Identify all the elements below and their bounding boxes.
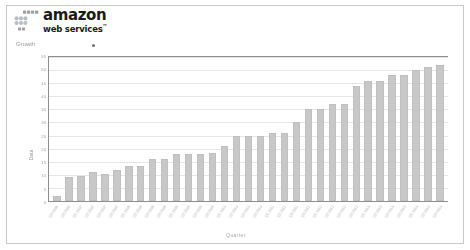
bar-slot xyxy=(290,57,302,201)
bar-slot xyxy=(374,57,386,201)
bar-slot xyxy=(434,57,446,201)
bar[interactable] xyxy=(257,136,264,201)
bar[interactable] xyxy=(424,67,431,201)
bar[interactable] xyxy=(341,104,348,201)
x-axis-tick: Q1 2008 xyxy=(120,205,131,219)
x-axis-tick: Q1 2009 xyxy=(168,205,179,219)
bar[interactable] xyxy=(376,81,383,201)
bar-slot xyxy=(183,57,195,201)
bar[interactable] xyxy=(77,176,84,201)
bar[interactable] xyxy=(101,174,108,201)
y-axis-tick: 45 xyxy=(41,80,46,85)
bar-slot xyxy=(362,57,374,201)
slide-canvas: amazon web services™ Growth Data 0510152… xyxy=(0,0,470,250)
y-axis-tick: 50 xyxy=(41,67,46,72)
bar[interactable] xyxy=(53,196,60,201)
legend-marker-icon xyxy=(92,44,95,47)
x-axis-tick: Q1 2010 xyxy=(216,205,227,219)
y-axis-tick: 10 xyxy=(41,173,46,178)
bar-slot xyxy=(422,57,434,201)
bar[interactable] xyxy=(400,75,407,201)
bar[interactable] xyxy=(364,81,371,201)
bar[interactable] xyxy=(317,109,324,201)
y-axis-tick: 5 xyxy=(44,186,46,191)
aws-logo: amazon web services™ xyxy=(14,8,107,36)
x-axis-tick: Q4 2007 xyxy=(108,205,119,219)
x-axis-tick: Q4 2013 xyxy=(396,205,407,219)
logo-webservices-text: web services™ xyxy=(43,24,107,33)
bar[interactable] xyxy=(245,136,252,201)
bar[interactable] xyxy=(185,154,192,201)
bar-slot xyxy=(51,57,63,201)
y-axis-tick: 20 xyxy=(41,146,46,151)
aws-cube-grid-icon xyxy=(14,10,40,36)
bar-slot xyxy=(87,57,99,201)
x-axis-tick: Q4 2009 xyxy=(204,205,215,219)
bar[interactable] xyxy=(281,133,288,201)
bar-slot xyxy=(147,57,159,201)
bar[interactable] xyxy=(149,159,156,201)
bar[interactable] xyxy=(89,172,96,201)
bar[interactable] xyxy=(293,122,300,201)
bar[interactable] xyxy=(305,109,312,201)
x-axis-tick: Q4 2006 xyxy=(60,205,71,219)
x-axis-tick: Q2 2013 xyxy=(372,205,383,219)
x-axis-tick: Q2 2014 xyxy=(420,205,431,219)
bar-slot xyxy=(314,57,326,201)
bar[interactable] xyxy=(197,154,204,201)
y-axis-tick-labels: 0510152025303540455055 xyxy=(30,56,47,202)
x-axis-tick: Q2 2008 xyxy=(132,205,143,219)
chart-container: Data 0510152025303540455055 Q3 2006Q4 20… xyxy=(20,56,452,246)
bar-slot xyxy=(410,57,422,201)
bar-slot xyxy=(219,57,231,201)
bar-slot xyxy=(302,57,314,201)
bar-slot xyxy=(171,57,183,201)
bar-slot xyxy=(278,57,290,201)
x-axis-tick: Q2 2012 xyxy=(324,205,335,219)
y-axis-tick: 30 xyxy=(41,120,46,125)
bar-slot xyxy=(135,57,147,201)
x-axis-tick: Q3 2006 xyxy=(48,205,59,219)
bar[interactable] xyxy=(209,153,216,201)
x-axis-tick: Q4 2010 xyxy=(252,205,263,219)
logo-amazon-text: amazon xyxy=(43,8,107,23)
bar[interactable] xyxy=(125,166,132,201)
bar-slot xyxy=(386,57,398,201)
y-axis-tick: 0 xyxy=(44,200,46,205)
x-axis-tick: Q3 2012 xyxy=(336,205,347,219)
bar-slot xyxy=(75,57,87,201)
bar-slot xyxy=(99,57,111,201)
bar[interactable] xyxy=(269,133,276,201)
bar-slot xyxy=(207,57,219,201)
x-axis-tick: Q2 2009 xyxy=(180,205,191,219)
x-axis-tick: Q2 2011 xyxy=(276,205,287,218)
x-axis-tick: Q3 2009 xyxy=(192,205,203,219)
bar[interactable] xyxy=(65,177,72,201)
bar[interactable] xyxy=(412,70,419,201)
bar[interactable] xyxy=(161,159,168,201)
x-axis-tick: Q3 2007 xyxy=(96,205,107,219)
x-axis-tick: Q4 2012 xyxy=(348,205,359,219)
bar-slot xyxy=(266,57,278,201)
bar[interactable] xyxy=(233,136,240,201)
bar[interactable] xyxy=(388,75,395,201)
bar[interactable] xyxy=(329,104,336,201)
bar-slot xyxy=(326,57,338,201)
bar-slot xyxy=(338,57,350,201)
bar-slot xyxy=(398,57,410,201)
bar[interactable] xyxy=(173,154,180,201)
x-axis-tick: Q1 2013 xyxy=(360,205,371,219)
x-axis-tick: Q2 2007 xyxy=(84,205,95,219)
bar[interactable] xyxy=(353,86,360,201)
bar[interactable] xyxy=(221,146,228,201)
bar[interactable] xyxy=(113,170,120,201)
plot-area xyxy=(48,56,448,202)
x-axis-tick: Q3 2013 xyxy=(384,205,395,219)
y-axis-tick: 25 xyxy=(41,133,46,138)
bar[interactable] xyxy=(436,65,443,201)
y-axis-tick: 55 xyxy=(41,54,46,59)
x-axis-tick: Q3 2010 xyxy=(240,205,251,219)
x-axis-tick: Q4 2011 xyxy=(300,205,311,218)
bar[interactable] xyxy=(137,166,144,201)
y-axis-tick: 15 xyxy=(41,160,46,165)
